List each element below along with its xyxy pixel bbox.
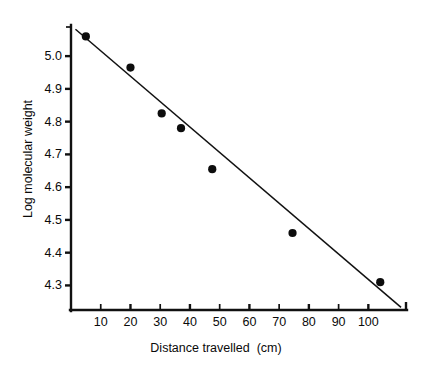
data-points xyxy=(82,32,385,286)
data-point-7 xyxy=(376,278,384,286)
regression-line xyxy=(75,29,401,307)
y-axis-title: Log molecular weight xyxy=(21,69,35,249)
data-point-2 xyxy=(126,63,134,71)
x-tick-label-10: 10 xyxy=(94,316,108,329)
y-tick-label-4.3: 4.3 xyxy=(14,279,62,292)
x-tick-label-60: 60 xyxy=(242,316,256,329)
x-tick-label-70: 70 xyxy=(272,316,286,329)
x-tick-label-20: 20 xyxy=(124,316,138,329)
x-tick-label-30: 30 xyxy=(153,316,167,329)
data-point-4 xyxy=(177,124,185,132)
data-point-5 xyxy=(208,165,216,173)
x-tick-label-40: 40 xyxy=(183,316,197,329)
data-point-6 xyxy=(288,229,296,237)
data-point-1 xyxy=(82,32,90,40)
x-tick-label-90: 90 xyxy=(332,316,346,329)
x-axis-title: Distance travelled (cm) xyxy=(0,341,432,355)
y-tick-label-5.0: 5.0 xyxy=(14,50,62,63)
scatter-plot-figure: 4.34.44.54.64.74.84.95.0 102030405060708… xyxy=(0,0,432,373)
x-tick-label-80: 80 xyxy=(302,316,316,329)
data-point-3 xyxy=(158,109,166,117)
x-tick-label-50: 50 xyxy=(213,316,227,329)
x-tick-label-100: 100 xyxy=(358,316,379,329)
